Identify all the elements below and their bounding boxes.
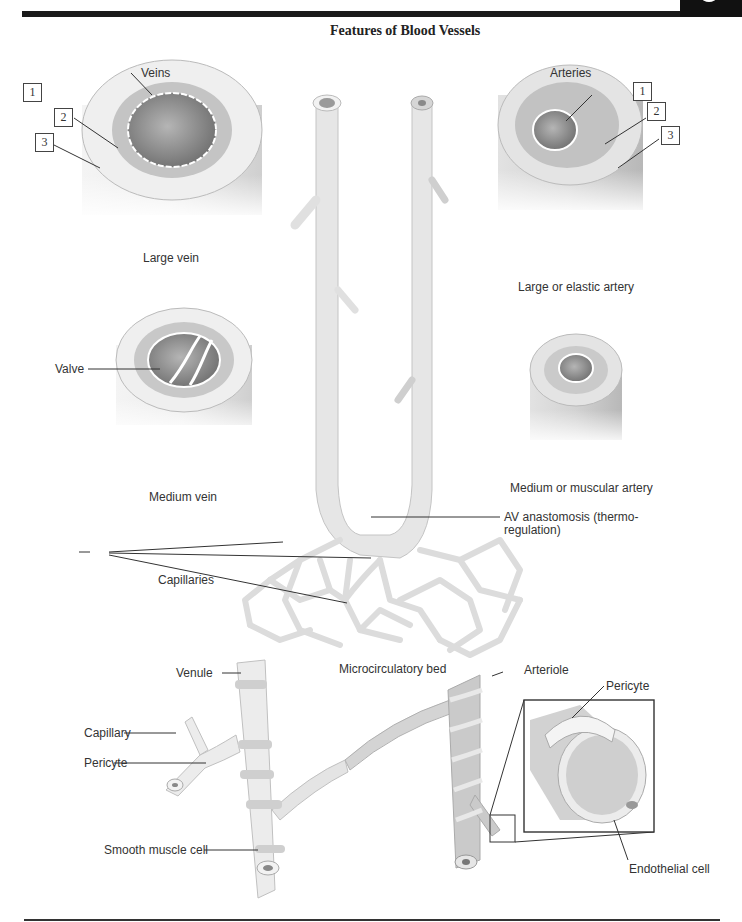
large-vein-label: Large vein xyxy=(143,251,199,265)
av-anastomosis-label-cont: regulation) xyxy=(504,523,561,537)
large-artery-label: Large or elastic artery xyxy=(518,280,634,294)
venule-label: Venule xyxy=(176,666,213,680)
smooth-muscle-cell-label: Smooth muscle cell xyxy=(104,843,208,857)
large-vein-illustration xyxy=(54,60,262,220)
medium-artery-label: Medium or muscular artery xyxy=(510,481,653,495)
venule-illustration xyxy=(166,660,348,898)
medium-artery-illustration xyxy=(530,334,622,445)
capillary-label: Capillary xyxy=(84,726,131,740)
central-vessel-trunks xyxy=(295,95,445,558)
figure-title: Features of Blood Vessels xyxy=(330,23,480,39)
artery-layer-marker-3: 3 xyxy=(661,126,680,145)
arteriole-label: Arteriole xyxy=(524,663,569,677)
capillaries-label: Capillaries xyxy=(158,573,214,587)
capillaries-leader-1 xyxy=(109,542,283,552)
arteriole-illustration xyxy=(345,675,500,869)
arteries-column-heading: Arteries xyxy=(550,66,591,80)
inset-pericyte-label: Pericyte xyxy=(606,679,649,693)
av-anastomosis-label: AV anastomosis (thermo- xyxy=(504,510,639,524)
medium-vein-illustration xyxy=(88,308,252,435)
blood-vessel-illustration xyxy=(0,0,742,922)
artery-layer-marker-2: 2 xyxy=(647,102,666,121)
vein-layer-marker-3: 3 xyxy=(35,133,54,152)
capillaries-leader-2 xyxy=(109,553,371,558)
pericyte-label: Pericyte xyxy=(84,756,127,770)
vein-layer-marker-2: 2 xyxy=(54,108,73,127)
capillary-bed-network xyxy=(245,540,520,655)
capillaries-leader-3 xyxy=(109,555,347,603)
endothelial-cell-label: Endothelial cell xyxy=(629,862,710,876)
artery-layer-marker-1: 1 xyxy=(633,82,652,101)
veins-column-heading: Veins xyxy=(141,66,170,80)
bottom-rule xyxy=(24,919,720,921)
microcirculatory-bed-label: Microcirculatory bed xyxy=(339,662,446,676)
vein-layer-marker-1: 1 xyxy=(23,83,42,102)
valve-label: Valve xyxy=(55,362,84,376)
medium-vein-label: Medium vein xyxy=(149,490,217,504)
pericyte-endothelial-inset xyxy=(490,686,654,860)
